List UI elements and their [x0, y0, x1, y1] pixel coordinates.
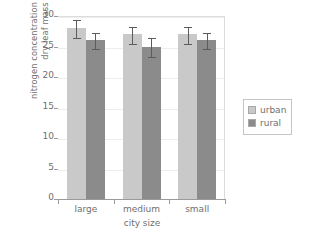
- error-bar-cap: [148, 38, 156, 39]
- legend-swatch-rural-icon: [248, 119, 256, 127]
- bar-rural-small: [197, 40, 216, 199]
- bar-urban-small: [178, 34, 197, 199]
- error-bar-cap: [129, 44, 137, 45]
- x-axis-tick-label-large: large: [74, 204, 97, 215]
- error-bar-rural-large: [95, 33, 96, 49]
- bar-urban-medium: [123, 34, 142, 199]
- bar-urban-large: [67, 28, 86, 199]
- chart-legend: urban rural: [243, 99, 292, 135]
- y-axis-tick-label: 20: [43, 71, 54, 80]
- y-axis-tick-label: 0: [48, 193, 54, 202]
- bar-rural-large: [86, 40, 105, 199]
- y-axis-tick-label: 25: [43, 40, 54, 49]
- error-bar-urban-large: [76, 20, 77, 38]
- bar-rural-medium: [142, 47, 161, 200]
- x-axis-line: [58, 199, 226, 200]
- legend-item-rural[interactable]: rural: [248, 117, 286, 129]
- x-axis-title: city size: [58, 218, 226, 228]
- y-axis-tick-label: 15: [43, 101, 54, 110]
- legend-swatch-urban-icon: [248, 106, 256, 114]
- error-bar-cap: [92, 49, 100, 50]
- error-bar-cap: [92, 33, 100, 34]
- error-bar-urban-medium: [132, 27, 133, 44]
- error-bar-rural-medium: [151, 38, 152, 56]
- error-bar-cap: [148, 57, 156, 58]
- error-bar-cap: [184, 27, 192, 28]
- error-bar-cap: [129, 27, 137, 28]
- error-bar-cap: [73, 20, 81, 21]
- error-bar-cap: [203, 49, 211, 50]
- legend-label-rural: rural: [260, 119, 281, 128]
- legend-label-urban: urban: [260, 106, 286, 115]
- y-axis-tick-label: 10: [43, 132, 54, 141]
- y-axis-tick-labels: 051015202530: [14, 14, 54, 199]
- legend-item-urban[interactable]: urban: [248, 104, 286, 116]
- x-axis-tick-labels: largemediumsmall: [58, 204, 226, 218]
- bars-layer: [58, 17, 224, 199]
- error-bar-rural-small: [207, 33, 208, 49]
- error-bar-urban-small: [188, 27, 189, 44]
- y-axis-tick-label: 30: [43, 10, 54, 19]
- error-bar-cap: [73, 38, 81, 39]
- x-axis-tick-label-medium: medium: [123, 204, 160, 215]
- bar-chart-figure: nitrogen concentration / mg g−1 dry leaf…: [0, 0, 309, 251]
- error-bar-cap: [184, 44, 192, 45]
- y-axis-tick-label: 5: [48, 162, 54, 171]
- error-bar-cap: [203, 33, 211, 34]
- plot-area: [58, 16, 225, 199]
- x-axis-tick-label-small: small: [185, 204, 209, 215]
